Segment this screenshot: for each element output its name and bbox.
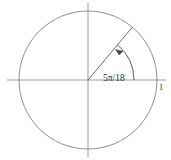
radius-label: 1 xyxy=(159,83,163,92)
unit-circle-figure: 5π/18 1 xyxy=(0,0,171,160)
unit-circle-diagram: 5π/18 1 xyxy=(0,0,171,160)
arrow-head-icon xyxy=(116,50,124,55)
angle-measure-label: 5π/18 xyxy=(103,73,125,83)
